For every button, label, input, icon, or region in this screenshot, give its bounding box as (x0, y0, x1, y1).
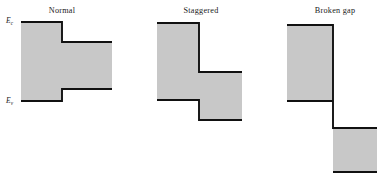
conduction-band-label: Ec (5, 16, 14, 26)
valence-band-label: Ev (5, 96, 14, 106)
band-region-broken-gap-left (287, 25, 333, 101)
panel-staggered: Staggered (157, 6, 242, 120)
valence-band-label-subscript: v (11, 100, 14, 106)
panel-normal: Normal Ec Ev (5, 6, 112, 106)
band-region-broken-gap-right (333, 128, 377, 172)
conduction-band-label-subscript: c (11, 20, 14, 26)
panel-title-broken-gap: Broken gap (315, 6, 355, 15)
band-diagram-canvas: Normal Ec Ev Staggered Broken gap (0, 0, 383, 182)
panel-broken-gap: Broken gap (287, 6, 377, 172)
panel-title-normal: Normal (49, 6, 76, 15)
band-alignment-figure: Normal Ec Ev Staggered Broken gap (0, 0, 383, 182)
panel-title-staggered: Staggered (184, 6, 219, 15)
